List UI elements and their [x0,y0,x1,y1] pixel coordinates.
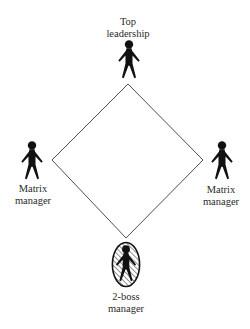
edge-top-right [128,84,203,160]
node-label-line-2: leadership [106,28,149,39]
node-label-line-2: manager [108,303,145,314]
node-top-leadership: Top leadership [106,16,149,78]
node-matrix-manager-right: Matrix manager [203,141,240,207]
person-icon [118,40,139,78]
node-label-line-2: manager [203,196,240,207]
edge-right-bottom [126,160,203,238]
node-label-line-1: Top [120,16,136,27]
person-icon [21,141,42,179]
node-label-line-1: Matrix [19,183,48,194]
node-label-line-1: 2-boss [112,291,139,302]
matrix-diamond-diagram: Top leadership Matrix manager Matrix man… [0,0,250,329]
node-two-boss-manager: 2-boss manager [108,243,145,315]
diamond-shape [52,84,203,238]
node-matrix-manager-left: Matrix manager [15,141,52,206]
node-label-line-2: manager [15,195,52,206]
person-icon [211,141,232,179]
node-label-line-1: Matrix [207,184,236,195]
edge-left-bottom [52,160,126,238]
edge-top-left [52,84,128,160]
